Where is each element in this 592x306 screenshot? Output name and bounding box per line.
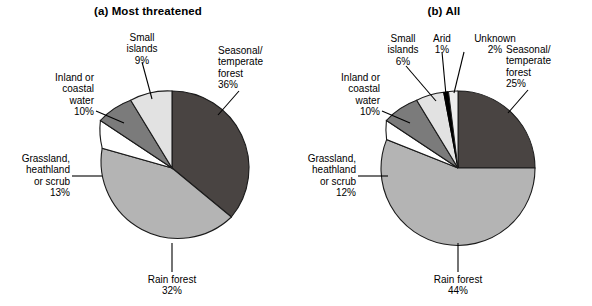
label-a-rain-forest: Rain forest 32% — [122, 274, 222, 297]
slice-b-seasonal-temperate-forest[interactable] — [458, 91, 535, 168]
label-b-seasonal: Seasonal/ temperate forest 25% — [506, 44, 590, 90]
pie-chart-figure: (a) Most threatened — [0, 0, 592, 306]
label-b-arid: Arid 1% — [418, 33, 466, 56]
label-a-small-islands: Small islands 9% — [92, 32, 192, 66]
panel-all: (b) All — [296, 0, 592, 306]
label-a-seasonal: Seasonal/ temperate forest 36% — [218, 45, 298, 91]
label-b-grassland: Grassland, heathland or scrub 12% — [296, 153, 356, 199]
label-b-rain-forest: Rain forest 44% — [408, 274, 508, 297]
leader-b-small-islands — [406, 66, 436, 101]
leader-b-seasonal — [508, 90, 528, 113]
leader-a-seasonal — [218, 91, 239, 115]
label-b-inland-or-coastal-water: Inland or coastal water 10% — [296, 72, 380, 118]
label-a-grassland: Grassland, heathland or scrub 13% — [0, 153, 70, 199]
panel-most-threatened: (a) Most threatened — [0, 0, 296, 306]
label-a-inland-or-coastal-water: Inland or coastal water 10% — [0, 72, 94, 118]
leader-b-unknown — [454, 52, 464, 93]
